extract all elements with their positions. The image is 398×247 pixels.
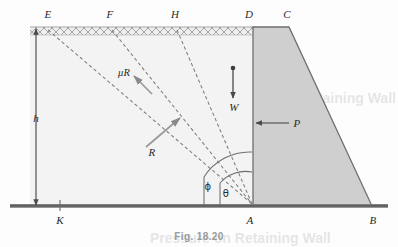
point-label-B: B: [370, 214, 377, 226]
force-label-R: R: [149, 146, 156, 158]
ground-surface-hatch: [30, 27, 255, 35]
point-label-H: H: [171, 8, 179, 20]
figure-caption: Fig. 18.20: [0, 231, 398, 242]
diagram-canvas: [0, 0, 398, 247]
force-label-W: W: [229, 101, 238, 113]
angle-label-phi: ϕ: [205, 181, 212, 192]
dimension-label-h: h: [33, 112, 39, 124]
figure-18-20: Retaining Wall Pressure on Retaining Wal…: [0, 0, 398, 247]
point-label-C: C: [283, 8, 291, 20]
point-label-K: K: [56, 214, 64, 226]
force-label-P: P: [294, 117, 301, 129]
point-label-E: E: [45, 8, 52, 20]
point-label-F: F: [107, 8, 114, 20]
angle-label-theta: θ: [223, 188, 229, 199]
point-label-A: A: [247, 214, 254, 226]
retaining-wall: [253, 27, 372, 206]
backfill-soil-region: [30, 30, 253, 206]
point-label-D: D: [245, 8, 253, 20]
force-label-mu-R: μR: [118, 67, 130, 78]
